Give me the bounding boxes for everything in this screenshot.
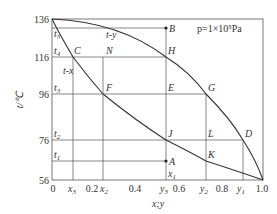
x-tick-0.4: 0.4 [129,183,142,194]
x-tick-x3: x3 [67,183,76,196]
x-tick-y2: y2 [199,183,208,196]
x-tick-y3: y3 [159,183,168,196]
t-x-curve [52,19,263,180]
point-n-label: N [105,45,114,56]
pressure-label: p=1×10⁵Pa [197,23,242,34]
point-h-label: H [167,45,176,56]
point-c-label: C [74,45,81,56]
y-axis-title: t/℃ [14,90,25,109]
point-a-marker [164,159,167,162]
point-b-label: B [169,23,175,34]
point-j-label: J [168,128,173,139]
point-l-label: L [207,128,214,139]
x1-label: x1 [167,168,176,181]
x-tick-x2: x2 [99,183,108,196]
txy-phase-diagram: 136 116 96 76 56 0 x3 0.2 x2 0.4 y3 0.6 … [0,0,277,214]
point-b-marker [164,26,167,29]
x-tick-0.8: 0.8 [216,183,229,194]
point-d-label: D [244,128,253,139]
t-x-label: t-x [63,65,74,76]
x-tick-1.0: 1.0 [256,183,269,194]
point-a-label: A [168,156,176,167]
t4-label: t4 [54,45,61,58]
y-tick-76: 76 [39,135,49,146]
t1-label: t1 [54,149,60,162]
y-tick-136: 136 [34,14,49,25]
point-f-label: F [105,82,113,93]
plot-frame [52,19,263,180]
point-g-label: G [208,82,215,93]
point-e-label: E [167,82,174,93]
t2-label: t2 [54,128,61,141]
y-tick-116: 116 [34,52,49,63]
y-tick-56: 56 [39,175,49,186]
t-y-curve [52,19,263,180]
x-tick-0: 0 [51,183,56,194]
y-tick-96: 96 [39,89,49,100]
t-y-label: t-y [106,29,117,40]
t3-label: t3 [54,82,61,95]
x-tick-0.6: 0.6 [173,183,186,194]
point-k-label: K [207,149,216,160]
x-tick-0.2: 0.2 [86,183,99,194]
x-axis-title: x;y [151,198,165,209]
x-tick-y1: y1 [236,183,245,196]
